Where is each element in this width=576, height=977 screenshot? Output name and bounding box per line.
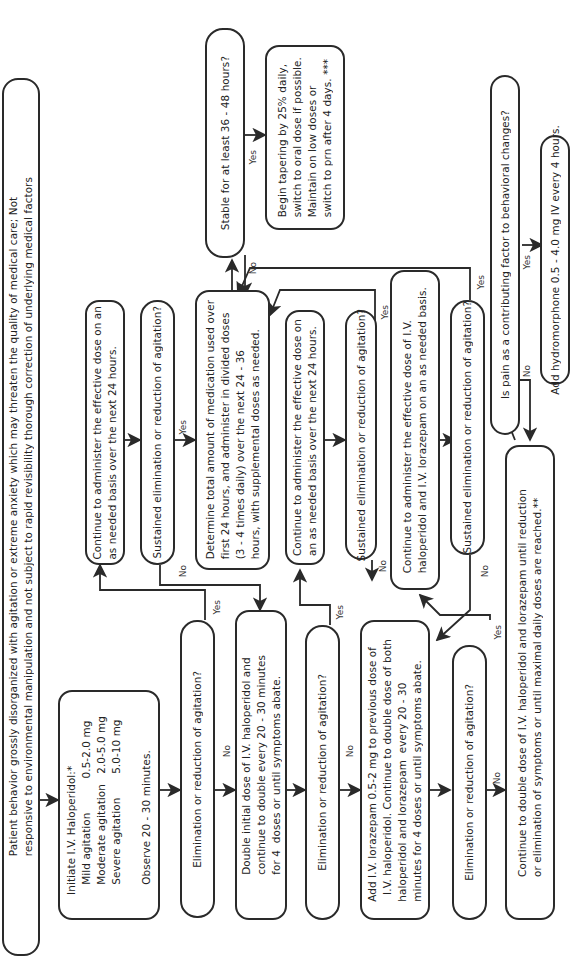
q3-no-label: No <box>492 772 502 784</box>
add-lorazepam-box: Add I.V. lorazepam 0.5-2 mg to previous … <box>360 620 430 920</box>
q1-yes-label: Yes <box>212 600 222 615</box>
sustained2-yes-label: Yes <box>380 305 390 320</box>
continue3-box: Continue to administer the effective dos… <box>390 270 440 590</box>
stable-decision: Stable for at least 36 - 48 hours? <box>205 28 245 258</box>
sustained1-decision: Sustained elimination or reduction of ag… <box>140 300 175 565</box>
sustained1-no-label: No <box>178 565 188 577</box>
q3-yes-label: Yes <box>493 625 503 640</box>
pain-no-label: No <box>522 365 532 377</box>
q1-no-label: No <box>222 745 232 757</box>
sustained1-yes-label: Yes <box>178 420 188 435</box>
initiate-haloperidol-text: Initiate I.V. Haloperidol:* Mild agitati… <box>64 716 154 895</box>
stable-yes-label: Yes <box>248 150 258 165</box>
stable-no-label: No <box>248 262 258 274</box>
sustained3-yes-label: Yes <box>476 275 486 290</box>
taper-box: Begin tapering by 25% daily, switch to o… <box>265 45 345 230</box>
sustained3-no-label: No <box>480 565 490 577</box>
q2-yes-label: Yes <box>335 605 345 620</box>
decision-q3: Elimination or reduction of agitation? <box>452 645 487 920</box>
sustained3-decision: Sustained elimination or reduction of ag… <box>450 300 485 555</box>
decision-q2: Elimination or reduction of agitation? <box>305 625 340 920</box>
determine-total-box: Determine total amount of medication use… <box>195 290 270 570</box>
continue-double-box: Continue to double dose of I.V. haloperi… <box>505 445 555 920</box>
initiate-haloperidol-box: Initiate I.V. Haloperidol:* Mild agitati… <box>58 690 160 920</box>
pain-yes-label: Yes <box>522 255 532 270</box>
start-text: Patient behavior grossly disorganized wi… <box>6 177 36 856</box>
continue1-box: Continue to administer the effective dos… <box>85 300 125 565</box>
sustained2-no-label: No <box>378 560 388 572</box>
pain-decision: Is pain as a contributing factor to beha… <box>490 75 520 435</box>
start-box: Patient behavior grossly disorganized wi… <box>2 78 40 956</box>
q2-no-label: No <box>345 745 355 757</box>
sustained2-decision: Sustained elimination or reduction of ag… <box>345 310 377 560</box>
decision-q1: Elimination or reduction of agitation? <box>180 620 215 918</box>
double-haloperidol-box: Double initial dose of I.V. haloperidol … <box>235 610 287 920</box>
hydromorphone-box: Add hydromorphone 0.5 - 4.0 mg IV every … <box>540 135 570 385</box>
continue2-box: Continue to administer the effective dos… <box>285 310 325 565</box>
